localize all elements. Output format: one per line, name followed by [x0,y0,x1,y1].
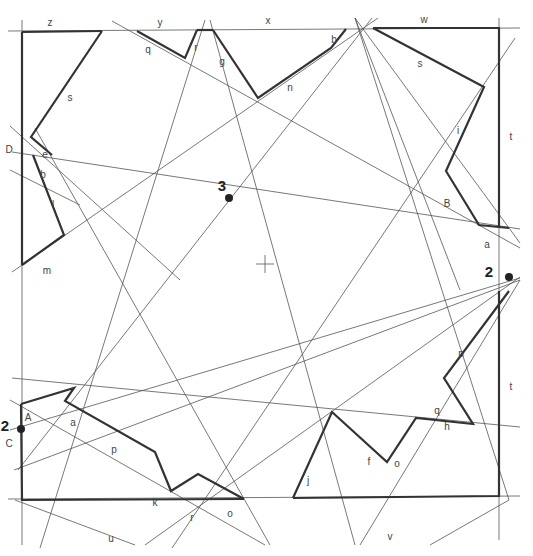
construction-lines [8,18,520,548]
point-p3 [225,194,233,202]
segment-label: o [227,508,233,519]
construction-line [35,128,270,545]
segment-label: e [42,149,48,160]
segment-label: p [458,348,464,359]
segment-label: f [368,456,371,467]
segment-label: h [444,421,450,432]
outline-edge [293,291,509,498]
construction-line [12,378,520,427]
outline-edge [373,28,509,228]
construction-line [210,20,355,545]
segment-label: n [287,82,293,93]
outline-edge [22,31,102,32]
segment-label: i [457,125,459,136]
segment-label: v [388,531,393,542]
construction-line [15,500,135,545]
construction-line [10,400,265,545]
construction-line [355,18,460,290]
construction-line [14,280,520,470]
marked-points: 322 [1,177,513,434]
outline-edge [21,404,244,500]
segment-label: a [70,417,76,428]
outline-edge [31,31,102,155]
outline-edge [213,29,346,98]
edge-and-segment-labels: zyxwttDCuvseblmqrgnbsiBaphqofjAapkro [5,14,512,544]
segment-label: w [419,14,428,25]
construction-line [10,126,180,280]
point-p2-right [505,273,513,281]
segment-label: s [68,92,73,103]
construction-line [355,18,520,243]
segment-label: C [5,438,12,449]
segment-label: q [434,405,440,416]
segment-label: D [5,144,12,155]
outline-edge [21,388,244,499]
point-p2-left [17,425,25,433]
segment-label: p [111,444,117,455]
point-label: 2 [1,417,9,434]
segment-label: b [40,169,46,180]
construction-line [430,500,509,545]
construction-line [360,280,520,545]
segment-label: l [52,199,54,210]
segment-label: j [306,475,309,486]
point-label: 3 [218,177,226,194]
segment-label: z [48,17,53,28]
segment-label: q [145,44,151,55]
point-label: 2 [485,263,493,280]
center-mark [256,255,274,273]
construction-line [12,18,378,272]
construction-line [172,38,515,548]
segment-label: r [190,512,194,523]
segment-label: t [510,381,513,392]
segment-label: u [108,533,114,544]
segment-label: B [444,198,451,209]
segment-label: A [25,412,32,423]
construction-line [40,20,205,548]
segment-label: x [266,15,271,26]
segment-label: m [43,265,51,276]
segment-label: s [418,58,423,69]
geometric-construction-diagram: 322 zyxwttDCuvseblmqrgnbsiBaphqofjAapkro [0,0,533,556]
segment-label: g [219,56,225,67]
segment-label: a [484,239,490,250]
construction-line [355,18,509,500]
segment-label: y [158,17,163,28]
segment-label: b [331,34,337,45]
segment-label: t [510,131,513,142]
segment-label: o [394,458,400,469]
construction-line [12,152,520,229]
